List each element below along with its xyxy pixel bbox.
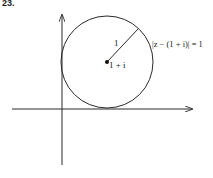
radius-label: 1 xyxy=(114,38,119,48)
equation-label: |z − (1 + i)| = 1 xyxy=(152,39,203,49)
complex-plane-figure: 23. 1 1 + i |z − (1 + i)| = 1 xyxy=(0,0,213,178)
figure-canvas: 23. 1 1 + i |z − (1 + i)| = 1 xyxy=(0,0,213,178)
center-label: 1 + i xyxy=(109,60,126,70)
radius-line xyxy=(107,29,138,62)
problem-number: 23. xyxy=(2,0,15,8)
